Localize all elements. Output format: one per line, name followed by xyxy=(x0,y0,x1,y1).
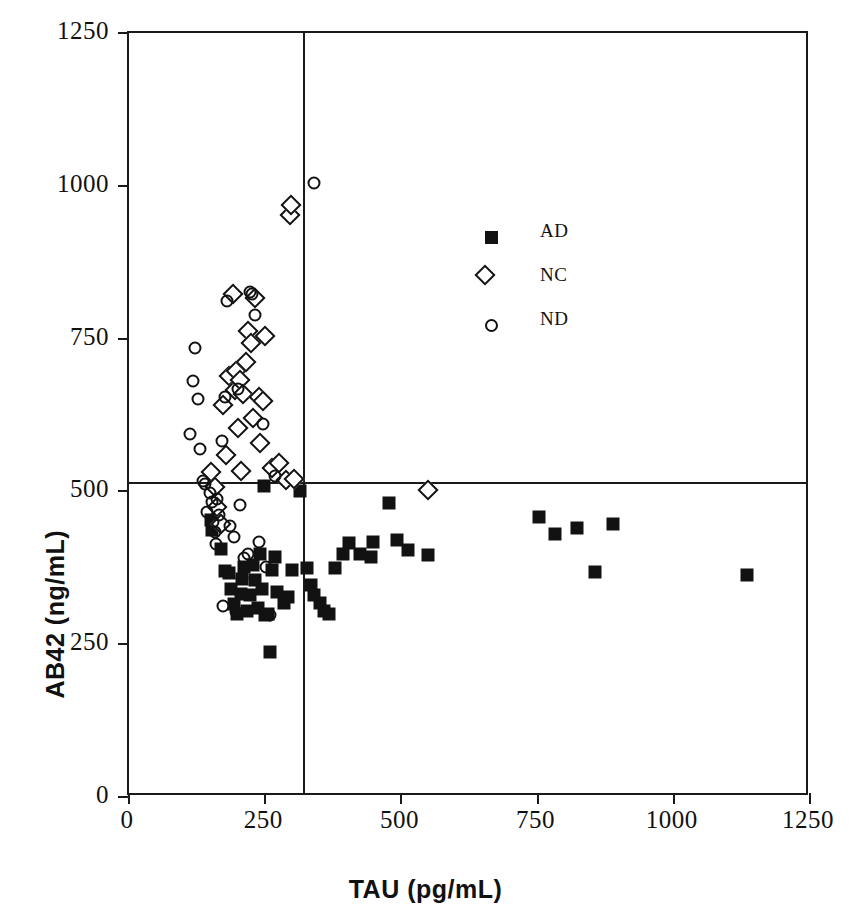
data-point-nd xyxy=(187,374,200,387)
data-point-nd xyxy=(252,536,265,549)
data-point-nd xyxy=(221,294,234,307)
legend-marker xyxy=(474,264,495,285)
data-point-nc xyxy=(231,461,252,482)
x-tick xyxy=(809,793,811,804)
data-point-ad xyxy=(570,522,583,535)
data-point-ad xyxy=(255,582,268,595)
data-point-ad xyxy=(364,551,377,564)
data-point-ad xyxy=(323,607,336,620)
legend-marker xyxy=(485,231,498,244)
data-point-ad xyxy=(421,548,434,561)
data-point-ad xyxy=(589,566,602,579)
x-tick xyxy=(537,793,539,804)
data-point-ad xyxy=(532,511,545,524)
data-point-nd xyxy=(269,470,282,483)
data-point-nd xyxy=(229,606,242,619)
data-point-ad xyxy=(263,645,276,658)
y-tick xyxy=(118,490,129,492)
y-tick xyxy=(118,338,129,340)
y-tick-label: 0 xyxy=(0,781,109,809)
x-tick-label: 0 xyxy=(121,806,134,834)
data-point-ad xyxy=(282,590,295,603)
x-tick xyxy=(264,793,266,804)
plot-area xyxy=(127,31,808,795)
data-point-nd xyxy=(249,308,262,321)
y-axis-title: AB42 (ng/mL) xyxy=(41,530,70,699)
data-point-nd xyxy=(257,417,270,430)
data-point-nd xyxy=(308,176,321,189)
data-point-ad xyxy=(383,497,396,510)
y-tick-label: 1250 xyxy=(0,17,109,45)
x-tick-label: 250 xyxy=(244,806,283,834)
legend-label: AD xyxy=(540,220,568,242)
data-point-ad xyxy=(223,566,236,579)
x-tick-label: 500 xyxy=(380,806,419,834)
data-point-ad xyxy=(367,535,380,548)
data-point-nd xyxy=(213,509,226,522)
data-point-nd xyxy=(241,547,254,560)
vertical-reference-line xyxy=(303,33,305,793)
y-tick xyxy=(118,32,129,34)
x-tick xyxy=(673,793,675,804)
data-point-ad xyxy=(549,528,562,541)
data-point-nd xyxy=(246,287,259,300)
data-point-ad xyxy=(253,547,266,560)
scatter-plot-figure: 025050075010001250 025050075010001250 AB… xyxy=(0,0,851,921)
x-axis-title: TAU (pg/mL) xyxy=(0,875,851,904)
data-point-nd xyxy=(193,442,206,455)
legend-label: NC xyxy=(540,264,567,286)
legend-item-ad: AD xyxy=(472,218,612,262)
data-point-nd xyxy=(189,342,202,355)
data-point-nc xyxy=(215,444,236,465)
data-point-nd xyxy=(184,427,197,440)
data-point-ad xyxy=(300,561,313,574)
x-tick-label: 750 xyxy=(516,806,555,834)
filled-square-icon xyxy=(472,218,498,244)
legend-label: ND xyxy=(540,308,568,330)
data-point-nc xyxy=(249,432,270,453)
horizontal-reference-line xyxy=(129,482,806,484)
data-point-ad xyxy=(258,479,271,492)
data-point-ad xyxy=(401,544,414,557)
y-tick-label: 1000 xyxy=(0,170,109,198)
data-point-nd xyxy=(210,537,223,550)
data-point-nd xyxy=(263,609,276,622)
y-tick xyxy=(118,643,129,645)
data-point-ad xyxy=(741,569,754,582)
data-point-nd xyxy=(236,572,249,585)
data-point-ad xyxy=(286,564,299,577)
legend-item-nc: NC xyxy=(472,262,612,306)
x-axis-tick-labels: 025050075010001250 xyxy=(127,806,808,846)
data-point-nd xyxy=(227,531,240,544)
legend-item-nd: ND xyxy=(472,306,612,350)
data-point-nd xyxy=(215,434,228,447)
data-point-nd xyxy=(234,499,247,512)
open-circle-icon xyxy=(472,306,498,332)
y-axis-title-wrapper: AB42 (ng/mL) xyxy=(42,230,72,630)
data-point-nd xyxy=(231,382,244,395)
data-point-nd xyxy=(260,561,273,574)
data-point-nd xyxy=(191,393,204,406)
data-point-nd xyxy=(211,492,224,505)
legend: ADNCND xyxy=(472,218,612,350)
open-diamond-icon xyxy=(472,262,498,288)
data-point-nd xyxy=(216,600,229,613)
legend-marker xyxy=(485,319,498,332)
x-tick-label: 1250 xyxy=(782,806,834,834)
y-tick xyxy=(118,185,129,187)
data-point-ad xyxy=(606,517,619,530)
x-tick xyxy=(128,793,130,804)
data-point-ad xyxy=(328,562,341,575)
x-tick-label: 1000 xyxy=(646,806,698,834)
data-point-nd xyxy=(218,390,231,403)
x-tick xyxy=(400,793,402,804)
